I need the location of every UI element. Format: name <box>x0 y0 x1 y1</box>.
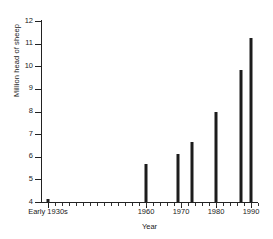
y-axis-tick-label: 10 <box>25 62 33 70</box>
x-axis-tick-label: 1990 <box>243 207 260 216</box>
x-axis-minor-tick <box>167 203 168 206</box>
y-axis-tick: 8 <box>35 112 41 113</box>
y-axis-tick-label: 4 <box>29 198 33 206</box>
bar <box>215 112 218 203</box>
x-axis-tick-label: 1970 <box>173 207 190 216</box>
y-axis-tick: 9 <box>35 89 41 90</box>
x-axis-minor-tick <box>251 203 252 206</box>
y-axis-tick: 4 <box>35 202 41 203</box>
y-axis-tick-label: 6 <box>29 152 33 160</box>
x-axis-minor-tick <box>69 203 70 206</box>
y-axis-title: Million head of sheep <box>12 1 21 121</box>
x-axis-tick-label: 1980 <box>208 207 225 216</box>
y-axis-line <box>41 20 42 203</box>
x-axis-tick-label: 1960 <box>138 207 155 216</box>
x-axis-minor-tick <box>90 203 91 206</box>
x-axis-minor-tick <box>209 203 210 206</box>
y-axis-tick: 10 <box>35 66 41 67</box>
y-axis-tick: 7 <box>35 134 41 135</box>
x-axis-minor-tick <box>76 203 77 206</box>
x-axis-minor-tick <box>125 203 126 206</box>
x-axis-minor-tick <box>139 203 140 206</box>
x-axis-minor-tick <box>202 203 203 206</box>
bar <box>176 154 179 202</box>
x-axis-minor-tick <box>83 203 84 206</box>
x-axis-minor-tick <box>118 203 119 206</box>
y-axis-tick: 6 <box>35 157 41 158</box>
y-axis-tick: 11 <box>35 44 41 45</box>
x-axis-tick-label: Early 1930s <box>28 207 68 216</box>
x-axis-minor-tick <box>244 203 245 206</box>
x-axis-title: Year <box>41 222 258 231</box>
x-axis-minor-tick <box>104 203 105 206</box>
y-axis-tick-label: 5 <box>29 175 33 183</box>
bar <box>47 199 50 202</box>
bar <box>190 142 193 202</box>
x-axis-minor-tick <box>146 203 147 206</box>
x-axis-minor-tick <box>195 203 196 206</box>
y-axis-tick-label: 7 <box>29 130 33 138</box>
x-axis-minor-tick <box>216 203 217 206</box>
y-axis-tick-label: 8 <box>29 107 33 115</box>
x-axis-minor-tick <box>62 203 63 206</box>
x-axis-line <box>41 202 258 203</box>
x-axis-minor-tick <box>97 203 98 206</box>
x-axis-minor-tick <box>188 203 189 206</box>
bar <box>239 70 242 202</box>
sheep-population-bar-chart: Million head of sheep 456789101112 Early… <box>0 0 273 239</box>
y-axis-tick-label: 12 <box>25 17 33 25</box>
y-axis-tick-label: 11 <box>25 39 33 47</box>
x-axis-minor-tick <box>111 203 112 206</box>
x-axis-minor-tick <box>237 203 238 206</box>
x-axis-minor-tick <box>181 203 182 206</box>
bar <box>250 38 253 202</box>
bar <box>145 164 148 202</box>
y-axis-tick: 12 <box>35 21 41 22</box>
y-axis-tick: 5 <box>35 179 41 180</box>
x-axis-minor-tick <box>223 203 224 206</box>
y-axis-tick-label: 9 <box>29 84 33 92</box>
x-axis-minor-tick <box>258 203 259 206</box>
x-axis-minor-tick <box>55 203 56 206</box>
x-axis-minor-tick <box>230 203 231 206</box>
x-axis-minor-tick <box>174 203 175 206</box>
x-axis-minor-tick <box>132 203 133 206</box>
x-axis-minor-tick <box>153 203 154 206</box>
x-axis-minor-tick <box>160 203 161 206</box>
